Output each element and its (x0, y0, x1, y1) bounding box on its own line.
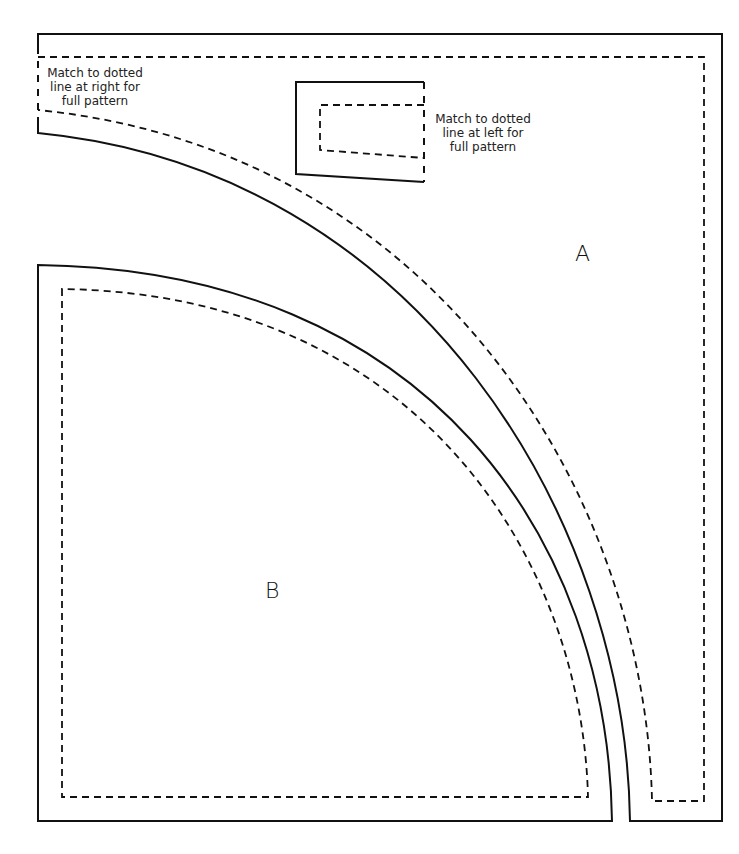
extension-seam-line (320, 105, 424, 158)
extension-cut-line (296, 82, 424, 182)
piece-b-cut-line (38, 265, 612, 821)
match-note-right-line2: line at left for (428, 126, 538, 140)
match-note-left-line1: Match to dotted (40, 66, 150, 80)
match-note-left-line2: line at right for (40, 80, 150, 94)
match-note-right-line3: full pattern (428, 140, 538, 154)
piece-a-label: A (575, 241, 590, 266)
match-note-left: Match to dotted line at right for full p… (40, 66, 150, 108)
piece-a-cut-line (38, 34, 722, 821)
match-note-right: Match to dotted line at left for full pa… (428, 112, 538, 154)
match-note-left-line3: full pattern (40, 94, 150, 108)
match-note-right-line1: Match to dotted (428, 112, 538, 126)
pattern-drawing (0, 0, 739, 854)
piece-b-seam-line (62, 289, 588, 797)
piece-a-seam-line (38, 57, 704, 801)
piece-b-label: B (265, 578, 279, 603)
